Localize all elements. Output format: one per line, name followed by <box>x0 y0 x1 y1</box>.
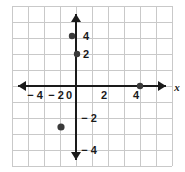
coordinate-plane: − 4 − 2 2 4 0 4 2 − 2 − 4 x <box>0 0 185 172</box>
data-point <box>137 83 143 89</box>
y-tick-label-2: 2 <box>83 48 89 60</box>
x-tick-label-neg4: − 4 <box>27 89 43 101</box>
x-tick-label-2: 2 <box>101 89 107 101</box>
y-tick-label-4: 4 <box>83 30 90 42</box>
origin-label-group: 0 <box>66 89 72 101</box>
y-tick-label-neg2: − 2 <box>81 112 97 124</box>
x-tick-label-neg2: − 2 <box>48 89 64 101</box>
origin-label: 0 <box>66 89 72 101</box>
data-point <box>57 123 64 130</box>
x-axis-name-label: x <box>173 81 180 93</box>
data-point <box>69 33 75 39</box>
y-tick-label-neg4: − 4 <box>81 144 97 156</box>
x-tick-label-4: 4 <box>133 89 140 101</box>
coordinate-plane-svg: − 4 − 2 2 4 0 4 2 − 2 − 4 x <box>0 0 185 172</box>
data-point <box>74 51 80 57</box>
